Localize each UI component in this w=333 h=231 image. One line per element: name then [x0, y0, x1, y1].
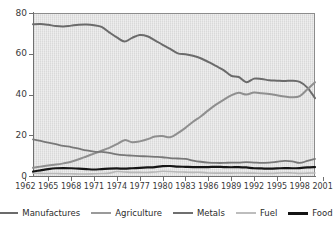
y-axis-label-60: 60 — [0, 49, 27, 58]
x-tick-1989 — [231, 177, 232, 181]
x-tick-1992 — [254, 177, 255, 181]
x-axis-label-1977: 1977 — [130, 183, 150, 191]
x-axis-label-1962: 1962 — [15, 183, 35, 191]
x-axis-label-1965: 1965 — [38, 183, 58, 191]
x-tick-1980 — [163, 177, 164, 181]
y-axis-label-40: 40 — [0, 90, 27, 99]
legend-label: Manufactures — [22, 209, 80, 218]
legend-label: Agriculture — [115, 209, 162, 218]
y-axis-label-20: 20 — [0, 131, 27, 140]
series-line-food — [33, 166, 315, 172]
legend-item-metals[interactable]: Metals — [173, 209, 225, 218]
x-tick-1977 — [140, 177, 141, 181]
legend-item-manufactures[interactable]: Manufactures — [0, 209, 80, 218]
x-tick-2001 — [323, 177, 324, 181]
x-tick-1986 — [208, 177, 209, 181]
series-lines — [33, 13, 315, 176]
x-axis-label-1971: 1971 — [84, 183, 104, 191]
legend-item-food[interactable]: Food — [288, 209, 332, 218]
legend-line-icon-food — [288, 212, 308, 215]
x-tick-1974 — [117, 177, 118, 181]
legend-item-fuel[interactable]: Fuel — [236, 209, 277, 218]
series-line-manufactures — [33, 24, 315, 98]
x-axis-label-1992: 1992 — [244, 183, 264, 191]
x-tick-1998 — [300, 177, 301, 181]
y-tick-0 — [29, 176, 33, 177]
x-tick-1968 — [71, 177, 72, 181]
y-axis-label-0: 0 — [0, 172, 27, 181]
chart-legend: ManufacturesAgricultureMetalsFuelFood — [0, 201, 331, 225]
x-axis-label-2001: 2001 — [312, 183, 332, 191]
legend-item-agriculture[interactable]: Agriculture — [91, 209, 162, 218]
x-tick-1995 — [277, 177, 278, 181]
legend-line-icon-manufactures — [0, 212, 18, 215]
series-line-agriculture — [33, 82, 315, 168]
x-axis-label-1983: 1983 — [175, 183, 195, 191]
x-axis-line — [33, 176, 316, 177]
x-axis-label-1974: 1974 — [107, 183, 127, 191]
legend-line-icon-agriculture — [91, 212, 111, 215]
x-axis-label-1989: 1989 — [221, 183, 241, 191]
x-tick-1971 — [94, 177, 95, 181]
x-tick-1962 — [25, 177, 26, 181]
x-tick-1983 — [185, 177, 186, 181]
x-axis-label-1995: 1995 — [267, 183, 287, 191]
x-axis-label-1986: 1986 — [198, 183, 218, 191]
legend-line-icon-fuel — [236, 212, 256, 214]
x-axis-label-1998: 1998 — [290, 183, 310, 191]
legend-label: Fuel — [260, 209, 277, 218]
x-axis-label-1968: 1968 — [61, 183, 81, 191]
legend-line-icon-metals — [173, 212, 193, 215]
y-axis-label-80: 80 — [0, 9, 27, 18]
x-axis-label-1980: 1980 — [152, 183, 172, 191]
series-line-fuel — [33, 171, 315, 174]
x-tick-1965 — [48, 177, 49, 181]
legend-label: Metals — [197, 209, 225, 218]
legend-label: Food — [312, 209, 332, 218]
